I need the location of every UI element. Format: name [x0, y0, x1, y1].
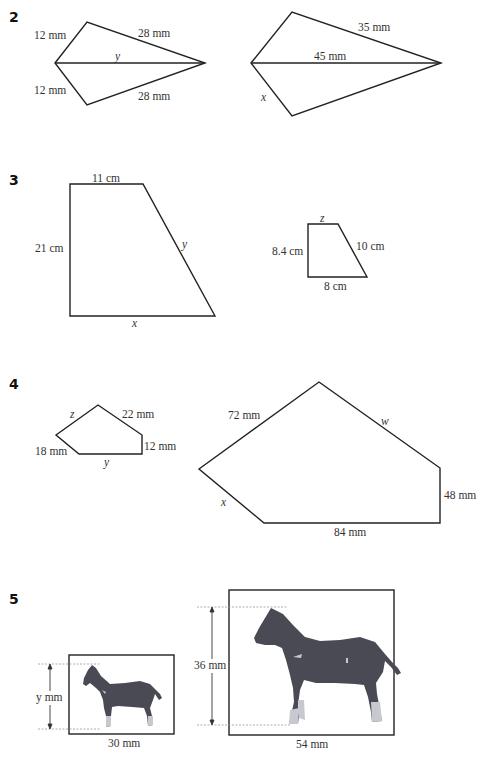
- label-small-kite-top-left: 12 mm: [34, 30, 66, 42]
- label-large-kite-top-right: 35 mm: [358, 22, 390, 34]
- label-large-pentagon-bottom: 84 mm: [334, 527, 366, 539]
- large-trapezium-shape: [70, 184, 215, 316]
- label-large-pentagon-bottom-left: x: [221, 497, 226, 509]
- label-large-horse-width: 54 mm: [296, 739, 328, 751]
- label-large-trapezium-bottom: x: [132, 318, 137, 330]
- label-large-horse-height: 36 mm: [194, 659, 226, 673]
- label-large-kite-bottom-left: x: [261, 92, 266, 104]
- label-small-trapezium-top: z: [320, 213, 324, 225]
- small-horse-icon: [83, 665, 162, 727]
- label-small-kite-bottom-left: 12 mm: [34, 85, 66, 97]
- label-large-kite-diagonal: 45 mm: [314, 51, 346, 63]
- label-small-horse-width: 30 mm: [108, 738, 140, 750]
- label-large-trapezium-slant: y: [182, 239, 187, 251]
- label-large-trapezium-top: 11 cm: [92, 173, 120, 185]
- label-small-pentagon-bottom-left: 18 mm: [35, 446, 67, 458]
- label-small-kite-top-right: 28 mm: [138, 28, 170, 40]
- label-small-pentagon-bottom: y: [104, 457, 109, 469]
- large-horse-icon: [254, 608, 401, 724]
- label-small-pentagon-right: 12 mm: [144, 441, 176, 453]
- label-small-pentagon-top-right: 22 mm: [122, 409, 154, 421]
- label-small-trapezium-bottom: 8 cm: [324, 281, 347, 293]
- label-large-pentagon-right: 48 mm: [444, 490, 476, 502]
- label-small-pentagon-z: z: [70, 409, 74, 421]
- label-small-kite-bottom-right: 28 mm: [138, 91, 170, 103]
- large-pentagon-shape: [199, 382, 440, 523]
- label-small-horse-height: y mm: [36, 691, 63, 705]
- label-large-trapezium-left: 21 cm: [35, 243, 63, 255]
- label-small-trapezium-left: 8.4 cm: [272, 246, 303, 258]
- figures-canvas: [0, 0, 485, 763]
- large-kite-shape: [251, 12, 441, 116]
- label-large-pentagon-top-left: 72 mm: [228, 410, 260, 422]
- label-large-pentagon-top-right: w: [381, 416, 389, 428]
- label-small-kite-diagonal: y: [115, 51, 120, 63]
- label-small-trapezium-slant: 10 cm: [356, 241, 384, 253]
